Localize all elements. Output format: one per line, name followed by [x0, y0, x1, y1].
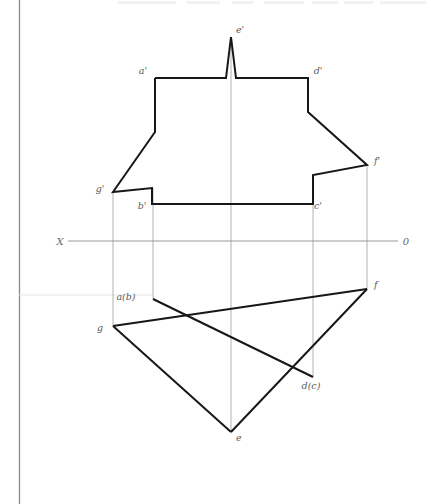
top-edge-g-e [113, 326, 231, 432]
vertex-label-d-prime: d' [314, 65, 323, 76]
vertex-label-e: e [236, 432, 242, 443]
axis-label-o: 0 [403, 236, 410, 247]
axis-label-x: X [55, 236, 64, 247]
top-edge-ab-dc [153, 299, 313, 377]
drawing-canvas: X 0 e' a' d' f' g' b' c' a(b) f g d(c) e [0, 0, 431, 504]
projector-lines-group [113, 37, 367, 432]
vertex-label-a-b: a(b) [116, 291, 135, 302]
vertex-label-d-c: d(c) [302, 380, 321, 391]
front-view-outline-group [113, 37, 367, 204]
top-edge-e-f [231, 289, 367, 432]
top-view-edges-group [113, 289, 367, 432]
vertex-label-b-prime: b' [138, 200, 147, 211]
vertex-label-g: g [97, 322, 103, 333]
vertex-label-f: f [373, 279, 379, 290]
vertex-label-f-prime: f' [373, 155, 380, 166]
vertex-label-g-prime: g' [96, 183, 105, 194]
vertex-label-a-prime: a' [139, 65, 147, 76]
scan-header-artifact [118, 1, 426, 4]
orthographic-projection-diagram: X 0 e' a' d' f' g' b' c' a(b) f g d(c) e [0, 0, 431, 504]
vertex-label-c-prime: c' [314, 200, 322, 211]
vertex-label-e-prime: e' [236, 24, 244, 35]
front-view-outline [113, 37, 367, 204]
